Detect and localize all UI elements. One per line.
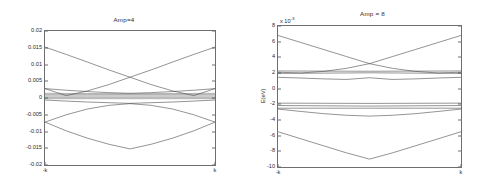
panel-left-ytick-6: -0.01 (29, 129, 42, 135)
panel-left-ytick-2: 0.01 (31, 62, 42, 68)
panel-right-ytick-3: 2 (272, 70, 275, 76)
panel-right-xtick-0: -k (276, 170, 281, 176)
panel-right-exponent: x 10-3 (280, 17, 294, 24)
figure-band-structure: Amp=4 0.02 0.015 0.01 0.005 0 -0.005 -0. (0, 0, 497, 183)
panel-right-bands (278, 26, 461, 167)
panel-left-xtick-1: k (214, 168, 217, 174)
panel-right-ytick-9: -10 (267, 164, 275, 170)
panel-right-ytick-6: -4 (270, 117, 275, 123)
panel-left-xtick-0: -k (43, 168, 48, 174)
panel-left-ytick-4: 0 (39, 95, 42, 101)
panel-right-ytick-8: -8 (270, 149, 275, 155)
panel-right-ytick-5: -2 (270, 102, 275, 108)
panel-left-title: Amp=4 (0, 16, 248, 23)
panel-left-ytick-0: 0.02 (31, 28, 42, 34)
panel-right-ylabel: E(eV) (261, 88, 267, 103)
panel-left-ytick-5: -0.005 (26, 112, 42, 118)
panel-left-ytick-7: -0.015 (26, 145, 42, 151)
panel-right-ytick-2: 4 (272, 55, 275, 61)
panel-left: Amp=4 0.02 0.015 0.01 0.005 0 -0.005 -0. (0, 0, 248, 183)
panel-right-xtick-1: k (460, 170, 463, 176)
panel-right-ytick-0: 8 (272, 23, 275, 29)
panel-right-axes: x 10-3 E(eV) 8 6 4 2 0 -2 -4 (277, 25, 462, 168)
panel-right-ytick-4: 0 (272, 86, 275, 92)
panel-left-ytick-1: 0.015 (28, 45, 42, 51)
panel-right-ytick-1: 6 (272, 39, 275, 45)
panel-right-ytick-7: -6 (270, 133, 275, 139)
panel-left-axes: 0.02 0.015 0.01 0.005 0 -0.005 -0.01 -0.… (44, 30, 216, 166)
panel-left-ytick-3: 0.005 (28, 78, 42, 84)
panel-right-title: Amp = 8 (248, 10, 497, 17)
panel-left-ytick-8: -0.02 (29, 162, 42, 168)
panel-right: Amp = 8 x 10-3 E(eV) 8 6 4 2 0 -2 (248, 0, 497, 183)
panel-left-bands (45, 31, 215, 165)
